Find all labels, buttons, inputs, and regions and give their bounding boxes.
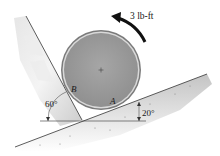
angle-arrowhead-icon [46, 117, 50, 121]
diagram-canvas: 3 lb-ft 60° 20° B A [0, 0, 220, 156]
moment-arrowhead-icon [111, 12, 121, 23]
disk [61, 30, 141, 110]
contact-label-a: A [109, 96, 116, 106]
contact-label-b: B [71, 84, 77, 94]
diagram-svg: 3 lb-ft 60° 20° B A [0, 0, 220, 156]
moment-label: 3 lb-ft [130, 11, 154, 21]
angle-label-60: 60° [45, 99, 58, 109]
angle-label-20: 20° [142, 108, 155, 118]
